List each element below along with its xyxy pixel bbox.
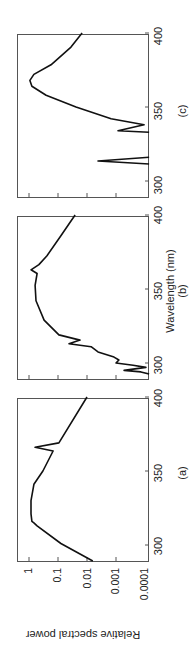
spectral-curve	[98, 157, 149, 164]
panel-a-plot	[17, 396, 151, 562]
panel-c	[17, 34, 149, 198]
y-tick-labels: 1 0.1 0.01 0.001 0.0001	[0, 564, 195, 655]
x-axis-title: Wavelength (nm)	[164, 249, 176, 332]
panel-c-xtick-300: 300	[152, 176, 164, 194]
panel-c-xtick-400: 400	[152, 27, 164, 45]
panel-c-xtick-350: 350	[152, 102, 164, 120]
y-tick-0.1: 0.1	[51, 568, 63, 583]
spectral-curve	[31, 215, 149, 374]
panel-a	[17, 398, 149, 562]
panel-b	[17, 216, 149, 380]
y-tick-1: 1	[22, 568, 34, 574]
panel-b-xtick-300: 300	[152, 356, 164, 374]
spectral-power-figure: Relative spectral power 1 0.1 0.01 0.001…	[0, 0, 195, 655]
spectral-curve	[31, 397, 93, 561]
panel-a-xtick-350: 350	[152, 464, 164, 482]
panel-b-plot	[17, 214, 151, 380]
panel-b-xtick-400: 400	[152, 206, 164, 224]
y-tick-0.001: 0.001	[109, 568, 121, 594]
panel-a-xtick-400: 400	[152, 389, 164, 407]
panel-a-caption: (a)	[176, 466, 188, 479]
panel-c-plot	[17, 32, 151, 198]
y-tick-0.0001: 0.0001	[138, 568, 150, 600]
y-tick-0.01: 0.01	[81, 568, 93, 588]
panel-a-xtick-300: 300	[152, 537, 164, 555]
panel-b-caption: (b)	[176, 284, 188, 297]
panel-b-xtick-350: 350	[152, 282, 164, 300]
spectral-curve	[30, 33, 149, 132]
panel-c-caption: (c)	[176, 105, 188, 118]
